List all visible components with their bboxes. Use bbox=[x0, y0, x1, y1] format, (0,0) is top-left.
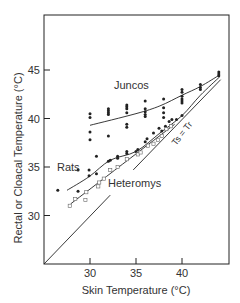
rats-point bbox=[170, 118, 173, 121]
rats-point bbox=[109, 159, 112, 162]
juncos-point bbox=[89, 116, 92, 119]
chart: 30354045 303540 Skin Temperature (°C) Re… bbox=[0, 0, 240, 303]
juncos-point bbox=[89, 131, 92, 134]
juncos-point bbox=[181, 101, 184, 104]
rats-point bbox=[160, 130, 163, 133]
rats-point bbox=[56, 189, 59, 192]
juncos-point bbox=[162, 111, 165, 114]
juncos-point bbox=[144, 115, 147, 118]
heteromys-point bbox=[102, 177, 105, 180]
juncos-point bbox=[125, 111, 128, 114]
identity-line-segment bbox=[133, 80, 220, 170]
juncos-point bbox=[125, 126, 128, 129]
juncos-point bbox=[107, 113, 110, 116]
rats-point bbox=[144, 140, 147, 143]
heteromys-point bbox=[68, 204, 71, 207]
heteromys-point bbox=[109, 168, 112, 171]
juncos-point bbox=[162, 98, 165, 101]
y-tick-label: 40 bbox=[28, 113, 40, 125]
juncos-point bbox=[217, 74, 220, 77]
heteromys-point bbox=[156, 138, 159, 141]
juncos-point bbox=[181, 88, 184, 91]
heteromys-point bbox=[152, 142, 155, 145]
juncos-point bbox=[125, 107, 128, 110]
identity-line-segment bbox=[44, 195, 110, 264]
rats-point bbox=[158, 127, 161, 130]
rats-point bbox=[88, 168, 91, 171]
heteromys-point bbox=[74, 197, 77, 200]
x-tick-label: 40 bbox=[176, 267, 188, 279]
juncos-point bbox=[144, 107, 147, 110]
rats-point bbox=[175, 118, 178, 121]
juncos-point bbox=[107, 134, 110, 137]
x-tick-label: 30 bbox=[84, 267, 96, 279]
heteromys-point bbox=[98, 181, 101, 184]
plot-frame bbox=[44, 15, 229, 264]
juncos-label: Juncos bbox=[114, 79, 149, 91]
heteromys-point bbox=[97, 185, 100, 188]
heteromys-point bbox=[125, 158, 128, 161]
heteromys-point bbox=[116, 165, 119, 168]
rats-point bbox=[125, 152, 128, 155]
heteromys-point bbox=[85, 191, 88, 194]
rats-point bbox=[146, 137, 149, 140]
juncos-point bbox=[89, 138, 92, 141]
juncos-point bbox=[125, 123, 128, 126]
x-tick-label: 35 bbox=[130, 267, 142, 279]
juncos-fit-curve bbox=[90, 75, 220, 125]
heteromys-point bbox=[160, 134, 163, 137]
x-axis-label: Skin Temperature (°C) bbox=[82, 284, 191, 296]
juncos-point bbox=[181, 95, 184, 98]
y-axis-ticks: 30354045 bbox=[28, 64, 50, 222]
juncos-point bbox=[162, 106, 165, 109]
x-axis-ticks: 303540 bbox=[84, 258, 188, 279]
juncos-point bbox=[144, 110, 147, 113]
identity-line-label: Ts = Tr bbox=[170, 120, 195, 148]
heteromys-label: Heteromys bbox=[108, 177, 162, 189]
rats-point bbox=[116, 157, 119, 160]
y-tick-label: 45 bbox=[28, 64, 40, 76]
rats-point bbox=[77, 190, 80, 193]
rats-point bbox=[168, 120, 171, 123]
heteromys-point bbox=[165, 128, 168, 131]
y-tick-label: 35 bbox=[28, 161, 40, 173]
y-axis-label: Rectal or Cloacal Temperature (°C) bbox=[12, 72, 24, 243]
juncos-point bbox=[162, 116, 165, 119]
rats-point bbox=[95, 155, 98, 158]
juncos-point bbox=[199, 83, 202, 86]
rats-point bbox=[152, 132, 155, 135]
rats-point bbox=[95, 172, 98, 175]
heteromys-point bbox=[169, 125, 172, 128]
rats-point bbox=[181, 114, 184, 117]
juncos-point bbox=[89, 112, 92, 115]
juncos-point bbox=[181, 91, 184, 94]
rats-point bbox=[88, 174, 91, 177]
juncos-point bbox=[144, 100, 147, 103]
rats-label: Rats bbox=[57, 161, 80, 173]
y-tick-label: 30 bbox=[28, 210, 40, 222]
heteromys-point bbox=[84, 198, 87, 201]
juncos-point bbox=[199, 88, 202, 91]
heteromys-point bbox=[146, 144, 149, 147]
heteromys-point bbox=[139, 151, 142, 154]
